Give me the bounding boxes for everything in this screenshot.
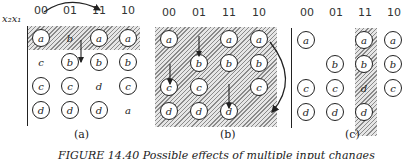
panel-c-label: (c)	[345, 128, 360, 141]
figure-caption: FIGURE 14.40 Possible effects of multipl…	[58, 149, 375, 159]
panel-a-label: (a)	[74, 128, 89, 141]
panel-b-label: (b)	[220, 128, 236, 141]
arc-arrow	[44, 2, 100, 12]
